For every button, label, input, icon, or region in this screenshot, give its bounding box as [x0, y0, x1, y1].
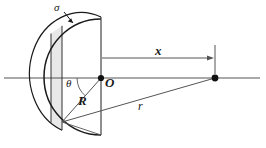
- sigma-arrowhead-icon: [68, 18, 73, 23]
- theta-label: θ: [66, 78, 71, 89]
- sigma-label: σ: [54, 2, 59, 13]
- origin-label: O: [105, 76, 114, 89]
- slant-distance-label: r: [138, 100, 143, 112]
- hemisphere-charge-diagram: [0, 0, 266, 148]
- radius-label: R: [78, 94, 87, 107]
- field-point-marker: [212, 75, 219, 82]
- center-point-marker: [98, 75, 104, 81]
- figure-container: σ θ O R r x: [0, 0, 266, 148]
- bowl-rim-chord: [62, 122, 101, 135]
- hemisphere-inner-arc: [30, 13, 101, 131]
- axial-distance-label: x: [155, 44, 162, 57]
- x-dimension-arrowhead-icon: [207, 55, 214, 60]
